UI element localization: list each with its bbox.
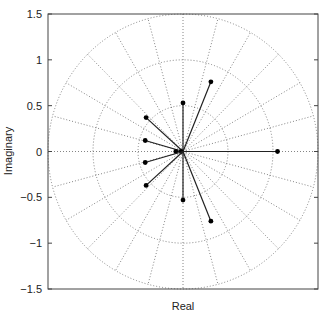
grid-ray — [183, 83, 300, 152]
y-tick-label: 1.5 — [27, 8, 42, 20]
data-point-marker — [209, 219, 214, 224]
data-point-marker — [143, 138, 148, 143]
y-tick-label: 0.5 — [27, 100, 42, 112]
y-tick-label: 0 — [36, 146, 42, 158]
data-point-marker — [181, 198, 186, 203]
grid-ray — [183, 152, 313, 188]
grid-ray — [183, 152, 278, 249]
grid-ray — [116, 152, 184, 271]
data-point-marker — [209, 79, 214, 84]
y-tick-label: 1 — [36, 54, 42, 66]
y-tick-label: −1 — [29, 237, 42, 249]
grid-ray — [148, 19, 183, 152]
y-tick-label: −0.5 — [20, 191, 42, 203]
grid-ray — [88, 54, 183, 151]
grid-ray — [88, 152, 183, 249]
grid-ray — [66, 152, 183, 221]
grid-ray — [183, 152, 218, 285]
y-axis-label: Imaginary — [2, 126, 14, 175]
grid-ray — [148, 152, 183, 285]
data-point-marker — [144, 183, 149, 188]
grid-ray — [183, 152, 300, 221]
vector-line — [183, 82, 211, 152]
y-tick-label: −1.5 — [20, 283, 42, 295]
data-point-marker — [275, 149, 280, 154]
grid-ray — [183, 116, 313, 152]
data-point-marker — [143, 160, 148, 165]
data-point-marker — [144, 115, 149, 120]
x-axis-label: Real — [172, 300, 195, 312]
data-point-marker — [181, 101, 186, 106]
complex-plane-chart: 1.510.50−0.5−1−1.5 Real Imaginary — [0, 0, 327, 317]
grid-ray — [183, 19, 218, 152]
grid-ray — [183, 54, 278, 151]
grid-ray — [116, 32, 184, 151]
vector-line — [183, 152, 211, 222]
grid-ray — [66, 83, 183, 152]
grid-ray — [183, 152, 251, 271]
grid-ray — [183, 32, 251, 151]
